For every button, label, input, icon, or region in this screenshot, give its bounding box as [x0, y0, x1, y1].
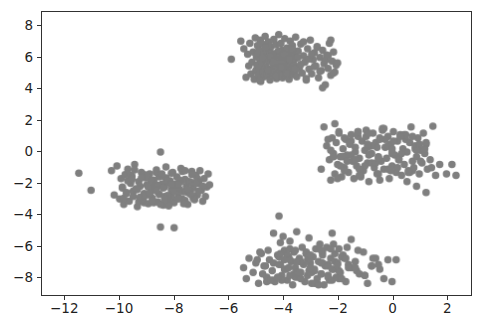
scatter-points-layer: [42, 12, 471, 295]
y-tick-mark: [37, 277, 41, 278]
y-tick-mark: [37, 120, 41, 121]
x-tick-label: −12: [50, 301, 79, 315]
y-tick-mark: [37, 183, 41, 184]
plot-axes-area: [41, 11, 472, 296]
y-tick-label: 4: [24, 81, 33, 95]
x-tick-label: 2: [443, 301, 452, 315]
y-tick-mark: [37, 25, 41, 26]
y-tick-label: 6: [24, 50, 33, 64]
y-tick-mark: [37, 246, 41, 247]
y-tick-mark: [37, 214, 41, 215]
y-tick-label: −6: [13, 239, 33, 253]
y-tick-mark: [37, 57, 41, 58]
x-tick-label: −4: [273, 301, 293, 315]
x-tick-label: −2: [328, 301, 348, 315]
y-tick-label: 0: [24, 144, 33, 158]
scatter-plot-figure: −12−10−8−6−4−202 −8−6−4−202468: [0, 0, 485, 335]
y-tick-label: −8: [13, 270, 33, 284]
y-tick-label: −4: [13, 207, 33, 221]
y-tick-label: 8: [24, 18, 33, 32]
x-tick-label: −6: [218, 301, 238, 315]
x-tick-label: −10: [105, 301, 134, 315]
y-tick-label: −2: [13, 176, 33, 190]
y-tick-mark: [37, 151, 41, 152]
y-tick-label: 2: [24, 113, 33, 127]
y-tick-mark: [37, 88, 41, 89]
x-tick-label: −8: [164, 301, 184, 315]
x-tick-label: 0: [388, 301, 397, 315]
